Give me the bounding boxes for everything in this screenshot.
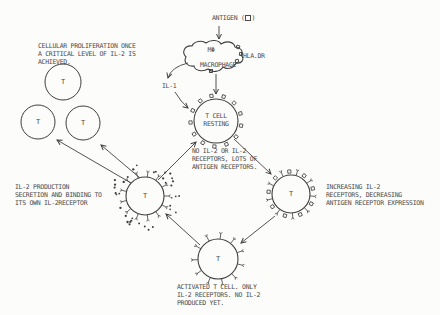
cluster-cell-label: T	[53, 78, 73, 86]
arrow-increasing-to-activated	[241, 216, 275, 243]
diagram-canvas: ANTIGEN () MΦ HLA.DR MACROPHAGE IL-1 T C…	[0, 0, 440, 315]
arrow-production-to-resting	[158, 142, 196, 180]
production-cell-label: T	[135, 192, 155, 200]
antigen-square-icon	[245, 15, 251, 21]
macrophage-label: MACROPHAGE	[200, 61, 236, 69]
il1-label: IL-1	[162, 82, 176, 90]
cluster-cell-label: T	[28, 118, 48, 126]
activated-cell-label: T	[208, 255, 228, 263]
activated-cell-caption: ACTIVATED T CELL. ONLY IL-2 RECEPTORS. N…	[177, 283, 260, 307]
antigen-label: ANTIGEN ()	[212, 14, 255, 22]
macrophage-symbol: MΦ	[203, 46, 219, 54]
arrow-activated-to-production	[166, 214, 200, 245]
hla-dr-label: HLA.DR	[243, 52, 265, 60]
production-cell-caption: IL-2 PRODUCTION SECRETION AND BINDING TO…	[15, 183, 102, 207]
arrow-production-to-cluster-right	[101, 145, 140, 178]
increasing-cell-caption: INCREASING IL-2 RECEPTORS, DECREASING AN…	[326, 183, 424, 207]
resting-cell-caption: NO IL-2 OR IL-2 RECEPTORS, LOTS OF ANTIG…	[192, 147, 257, 171]
increasing-cell-label: T	[281, 190, 301, 198]
proliferation-cluster-circles	[21, 64, 100, 140]
cluster-cell-label: T	[73, 119, 93, 127]
proliferation-caption: CELLULAR PROLIFERATION ONCE A CRITICAL L…	[38, 42, 136, 66]
resting-cell-label: T CELL RESTING	[191, 112, 241, 128]
arrow-il1-to-resting	[175, 92, 188, 108]
arrow-macrophage-to-il1	[168, 63, 188, 78]
